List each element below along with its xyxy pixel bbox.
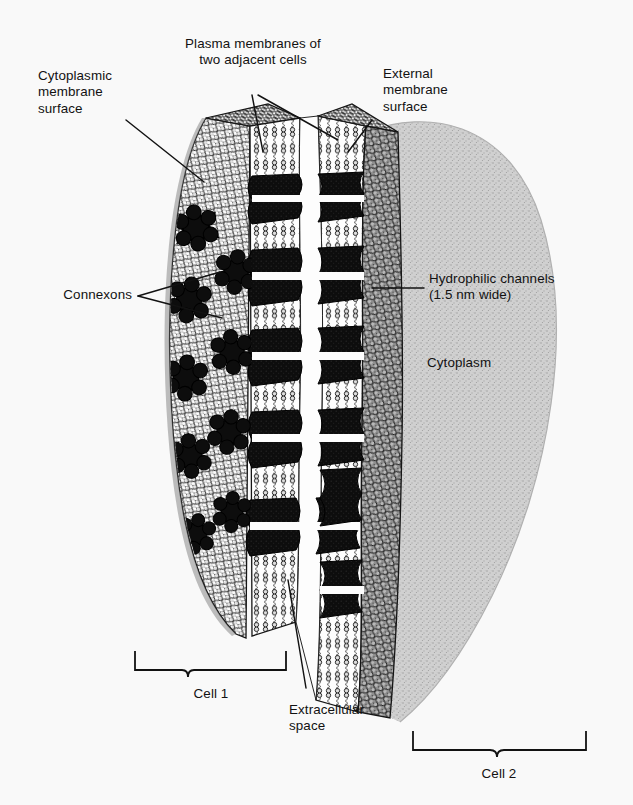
label-plasma-membranes: Plasma membranes of two adjacent cells (150, 36, 356, 69)
connexon-channel-pair (320, 560, 364, 618)
diagram-artwork (0, 0, 633, 805)
connexon-channel-pair (320, 468, 362, 526)
label-connexons: Connexons (8, 287, 132, 303)
label-cytoplasmic-membrane-surface: Cytoplasmic membrane surface (38, 68, 170, 117)
label-cell-2: Cell 2 (423, 766, 575, 782)
label-hydrophilic-channels: Hydrophilic channels (1.5 nm wide) (429, 271, 615, 304)
gap-junction-figure: Cytoplasmic membrane surface Plasma memb… (0, 0, 633, 805)
label-external-membrane-surface: External membrane surface (383, 66, 495, 115)
label-cytoplasm: Cytoplasm (427, 355, 537, 371)
cell2-external-surface (358, 126, 403, 718)
label-cell-1: Cell 1 (135, 686, 287, 702)
label-extracellular-space: Extracellular space (289, 702, 413, 735)
